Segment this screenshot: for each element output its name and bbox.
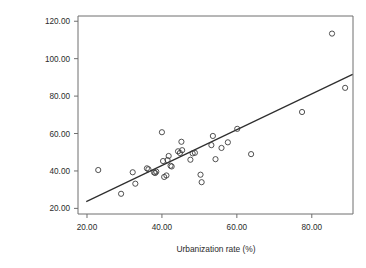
data-point-marker [343, 85, 348, 90]
data-point-marker [210, 133, 215, 138]
data-points [96, 31, 348, 196]
data-point-marker [209, 143, 214, 148]
data-point-marker [219, 145, 224, 150]
x-tick-label: 80.00 [302, 223, 323, 232]
data-point-marker [248, 152, 253, 157]
data-point-marker [118, 191, 123, 196]
data-point-marker [133, 181, 138, 186]
x-axis-title: Urbanization rate (%) [176, 244, 255, 254]
data-point-marker [188, 157, 193, 162]
data-point-marker [299, 109, 304, 114]
y-tick-label: 40.00 [50, 167, 71, 176]
y-tick-label: 100.00 [45, 55, 70, 64]
data-point-marker [329, 31, 334, 36]
data-point-marker [198, 172, 203, 177]
x-tick-label: 20.00 [77, 223, 98, 232]
data-point-marker [159, 130, 164, 135]
x-tick-label: 60.00 [227, 223, 248, 232]
plot-frame [78, 16, 353, 214]
data-point-marker [96, 167, 101, 172]
data-point-marker [199, 180, 204, 185]
scatter-plot-figure: 20.0040.0060.0080.00 20.0040.0060.0080.0… [0, 0, 366, 268]
chart-canvas: 20.0040.0060.0080.00 20.0040.0060.0080.0… [0, 0, 366, 268]
y-axis-ticks [74, 21, 78, 208]
data-point-marker [179, 139, 184, 144]
x-axis-tick-labels: 20.0040.0060.0080.00 [77, 223, 323, 232]
y-tick-label: 60.00 [50, 130, 71, 139]
y-axis-tick-labels: 20.0040.0060.0080.00100.00120.00 [45, 17, 70, 213]
y-tick-label: 80.00 [50, 92, 71, 101]
data-point-marker [146, 167, 151, 172]
x-axis-ticks [87, 214, 312, 218]
data-point-marker [225, 140, 230, 145]
data-point-marker [130, 170, 135, 175]
y-tick-label: 20.00 [50, 204, 71, 213]
y-tick-label: 120.00 [45, 17, 70, 26]
data-point-marker [213, 157, 218, 162]
regression-line [86, 74, 352, 201]
x-tick-label: 40.00 [152, 223, 173, 232]
